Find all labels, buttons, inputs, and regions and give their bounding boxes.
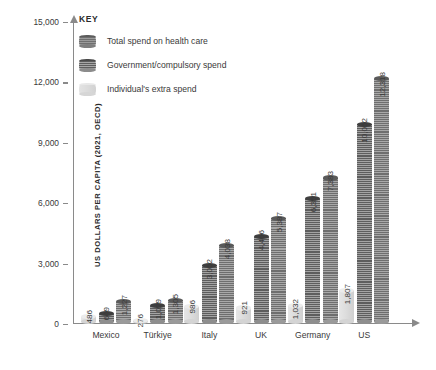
x-axis-category-label: US <box>339 330 389 340</box>
bar-groups: 4866491,227Mexico2761,0291,305Türkiye986… <box>73 22 413 324</box>
bar-base <box>202 319 217 324</box>
bar-value-label: 1,305 <box>166 284 175 304</box>
bar: 1,227 <box>116 299 131 324</box>
bar-group: 1,0326,3517,383Germany <box>288 22 338 324</box>
bar-value-label: 7,383 <box>321 161 330 181</box>
y-axis-tick-label: 6,000 <box>38 198 59 208</box>
bar-group: 4866491,227Mexico <box>81 22 131 324</box>
bar: 649 <box>99 311 114 324</box>
bar-base <box>374 319 389 324</box>
x-axis-category-label: Mexico <box>81 330 131 340</box>
bar-value-label: 1,807 <box>338 273 347 293</box>
bar-value-label: 4,038 <box>218 229 227 249</box>
bar: 4,038 <box>219 243 234 324</box>
bar-body <box>357 124 372 322</box>
bar-base <box>305 319 320 324</box>
bar: 5,387 <box>271 216 286 324</box>
y-axis-tick <box>63 324 68 325</box>
bar-base <box>323 319 338 324</box>
y-axis-tick-label: 12,000 <box>33 77 59 87</box>
bar-body <box>323 178 338 322</box>
bar-value-label: 12,318 <box>373 60 382 85</box>
bar-value-label: 276 <box>131 307 140 321</box>
x-axis-category-label: Italy <box>184 330 234 340</box>
bar-value-label: 5,387 <box>270 201 279 221</box>
bar-base <box>236 319 251 324</box>
bar-base <box>271 319 286 324</box>
bar-value-label: 10,052 <box>355 105 364 130</box>
bar: 1,305 <box>168 298 183 324</box>
bar-value-label: 921 <box>235 295 244 309</box>
x-axis-category-label: UK <box>236 330 286 340</box>
bar-base <box>168 319 183 324</box>
bar: 921 <box>236 305 251 324</box>
bar-base <box>339 319 354 324</box>
bar-value-label: 649 <box>97 300 106 314</box>
bar-value-label: 1,227 <box>115 285 124 305</box>
bar-group: 9214,4665,387UK <box>236 22 286 324</box>
bar-base <box>116 319 131 324</box>
x-axis-category-label: Türkiye <box>133 330 183 340</box>
bar: 6,351 <box>305 196 320 324</box>
y-axis-tick <box>63 264 68 265</box>
bar-base <box>219 319 234 324</box>
bar-group: 9863,0524,038Italy <box>184 22 234 324</box>
bar-body <box>271 218 286 322</box>
bar: 1,807 <box>339 288 354 324</box>
bar: 12,318 <box>374 76 389 324</box>
bar-value-label: 6,351 <box>304 182 313 202</box>
bar-base <box>150 319 165 324</box>
bar-value-label: 4,466 <box>252 220 261 240</box>
bar-value-label: 3,052 <box>200 248 209 268</box>
bar-body <box>305 199 320 322</box>
bar: 1,029 <box>150 303 165 324</box>
y-axis-tick <box>63 203 68 204</box>
bar-base <box>254 319 269 324</box>
bar: 4,466 <box>254 234 269 324</box>
bar: 10,052 <box>357 122 372 324</box>
bar: 1,032 <box>288 303 303 324</box>
bar-base <box>357 319 372 324</box>
bar: 486 <box>81 314 96 324</box>
bar-value-label: 486 <box>80 303 89 317</box>
bar-value-label: 1,032 <box>286 289 295 309</box>
bar: 3,052 <box>202 263 217 324</box>
bar-chart: KEY Total spend on health care Governmen… <box>0 0 436 370</box>
y-axis-tick <box>63 143 68 144</box>
y-axis-tick-label: 9,000 <box>38 138 59 148</box>
bar-base <box>288 319 303 324</box>
bar-value-label: 986 <box>183 293 192 307</box>
x-axis-category-label: Germany <box>288 330 338 340</box>
bar-base <box>184 319 199 324</box>
bar: 276 <box>133 318 148 324</box>
bar-value-label: 1,029 <box>149 289 158 309</box>
bar-group: 2761,0291,305Türkiye <box>133 22 183 324</box>
y-axis-tick <box>63 22 68 23</box>
bar: 986 <box>184 304 199 324</box>
bar-group: 1,80710,05212,318US <box>339 22 389 324</box>
plot-area: 03,0006,0009,00012,00015,000 4866491,227… <box>73 22 413 324</box>
y-axis-tick-label: 0 <box>54 319 59 329</box>
y-axis-tick-label: 15,000 <box>33 17 59 27</box>
x-axis-arrow-icon <box>412 319 420 327</box>
bar: 7,383 <box>323 175 338 324</box>
bar-body <box>374 79 389 322</box>
y-axis-tick <box>63 82 68 83</box>
y-axis-tick-label: 3,000 <box>38 259 59 269</box>
